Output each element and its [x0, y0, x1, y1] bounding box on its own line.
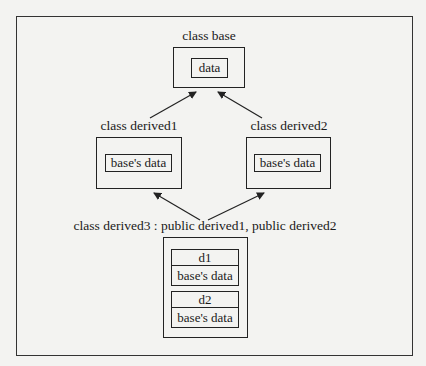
derived2-base-data-member: base's data: [254, 154, 321, 172]
d1-subobject-box: d1 base's data: [171, 249, 239, 286]
derived1-base-data-member: base's data: [105, 154, 172, 172]
base-data-member: data: [191, 58, 228, 78]
arrow-derived3-to-derived1: [154, 193, 200, 220]
derived1-class-label: class derived1: [88, 118, 190, 134]
derived2-class-label: class derived2: [238, 118, 340, 134]
d1-base-data-member: base's data: [172, 266, 238, 285]
arrow-derived3-to-derived2: [208, 193, 264, 220]
d2-subobject-name: d2: [172, 292, 238, 308]
derived3-class-label: class derived3 : public derived1, public…: [70, 218, 340, 234]
arrow-derived2-to-base: [218, 92, 262, 118]
d2-subobject-box: d2 base's data: [171, 291, 239, 328]
d2-base-data-member: base's data: [172, 308, 238, 327]
arrow-derived1-to-base: [150, 92, 196, 118]
d1-subobject-name: d1: [172, 250, 238, 266]
base-class-label: class base: [163, 28, 255, 44]
